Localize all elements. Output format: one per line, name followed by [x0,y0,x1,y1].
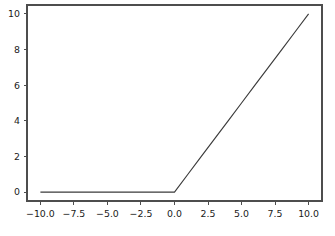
y-tick-label-1: 2 [14,151,20,162]
x-tick-label-0: −10.0 [26,208,55,219]
x-tick-label-6: 5.0 [234,208,249,219]
relu-line-chart: −10.0−7.5−5.0−2.50.02.55.07.510.0 024681… [0,0,335,236]
x-tick-label-4: 0.0 [167,208,182,219]
y-tick-label-0: 0 [14,186,20,197]
x-tick-label-3: −2.5 [130,208,153,219]
x-tick-label-7: 7.5 [268,208,283,219]
x-axis-tick-labels: −10.0−7.5−5.0−2.50.02.55.07.510.0 [26,208,319,219]
y-axis-tick-labels: 0246810 [8,8,20,197]
plot-area-background [27,5,322,201]
y-tick-label-4: 8 [14,44,20,55]
y-tick-label-3: 6 [14,80,20,91]
x-tick-label-5: 2.5 [201,208,216,219]
x-tick-label-8: 10.0 [298,208,319,219]
chart-figure: −10.0−7.5−5.0−2.50.02.55.07.510.0 024681… [0,0,335,236]
y-tick-label-5: 10 [8,8,20,19]
y-tick-label-2: 4 [14,115,20,126]
x-tick-label-2: −5.0 [96,208,119,219]
x-tick-label-1: −7.5 [63,208,86,219]
